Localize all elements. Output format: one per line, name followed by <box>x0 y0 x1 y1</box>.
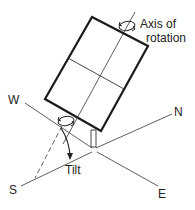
compass-south: S <box>9 183 17 197</box>
axis-label-line2: rotation <box>146 31 186 45</box>
solar-panel <box>45 17 148 131</box>
east-line <box>97 152 158 186</box>
compass-north: N <box>174 105 183 119</box>
compass-east: E <box>158 187 166 201</box>
axis-projection-dashed <box>35 126 62 178</box>
panel-divider <box>68 58 124 89</box>
axis-label-line1: Axis of <box>140 17 177 31</box>
tracker-diagram: Axis of rotation Tilt W N S E <box>0 0 195 210</box>
support-post <box>91 130 96 147</box>
rotation-arrow-bottom-icon <box>57 115 74 127</box>
compass <box>21 103 172 186</box>
tilt-label: Tilt <box>65 163 81 177</box>
compass-west: W <box>8 93 20 107</box>
tilt-arrowhead <box>67 153 73 160</box>
south-line <box>21 152 92 186</box>
